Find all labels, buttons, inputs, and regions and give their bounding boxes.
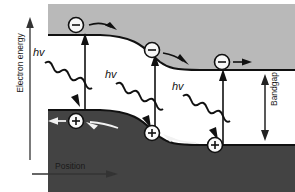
band-diagram-canvas xyxy=(0,0,295,192)
hole-carrier-1 xyxy=(69,114,84,129)
electron-carrier-3 xyxy=(215,55,230,70)
electron-carrier-1 xyxy=(69,18,84,33)
x-axis-label: Position xyxy=(55,161,85,171)
hole-carrier-2 xyxy=(145,126,160,141)
excitation-arrow-left xyxy=(81,33,89,110)
excitation-arrow-right xyxy=(219,69,227,145)
photon-label-middle: hv xyxy=(105,68,117,80)
excitation-arrow-middle xyxy=(151,54,159,133)
photon-label-right: hv xyxy=(172,80,184,92)
photon-label-left: hv xyxy=(33,46,45,58)
y-axis-label: Electron energy xyxy=(15,25,25,101)
electron-carrier-2 xyxy=(145,43,160,58)
hole-carrier-3 xyxy=(208,138,223,153)
band-diagram-figure: Electron energy Position Bandgap hv hv h… xyxy=(0,0,295,192)
bandgap-double-arrow xyxy=(261,74,269,141)
bandgap-label: Bandgap xyxy=(269,60,279,118)
valence-band-region xyxy=(48,110,295,192)
